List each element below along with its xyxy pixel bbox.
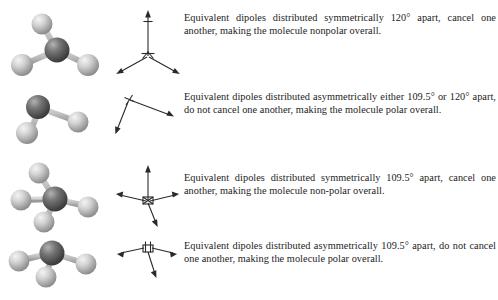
dipole-diagram-trigonal-symmetric (112, 6, 184, 78)
arrowhead (172, 192, 179, 198)
central-atom (43, 187, 68, 212)
dipole-arrow (120, 57, 147, 72)
dipole-vectors-tetrahedral-symmetric (112, 162, 184, 234)
bent-molecule (0, 88, 112, 152)
dipole-diagram-bent-asymmetric (112, 88, 184, 150)
dipole-cross-tail (143, 245, 153, 252)
description-cell: Equivalent dipoles distributed symmetric… (184, 162, 498, 198)
description-text: Equivalent dipoles distributed asymmetri… (184, 91, 496, 117)
trigonal-planar-molecule (0, 6, 112, 82)
central-atom (26, 95, 50, 119)
terminal-atom (11, 54, 33, 76)
dipole-arrow (121, 248, 144, 253)
trigonal-pyramidal-molecule (0, 236, 112, 296)
dipole-vectors-bent-asymmetric (112, 88, 184, 152)
molecule-model-trigonal-pyramidal (0, 236, 112, 296)
terminal-atom (77, 54, 99, 76)
description-text: Equivalent dipoles distributed symmetric… (184, 12, 496, 38)
molecule-model-tetrahedral (0, 162, 112, 232)
description-cell: Equivalent dipoles distributed asymmetri… (184, 88, 498, 117)
dipole-arrow (152, 248, 173, 253)
arrowhead (151, 270, 157, 278)
dipole-arrow (117, 102, 128, 130)
terminal-atom (68, 112, 89, 133)
dipole-arrow (130, 100, 170, 115)
arrowhead (115, 126, 121, 134)
central-atom (45, 38, 70, 63)
dipole-diagram-pyramidal-asymmetric (112, 236, 184, 296)
terminal-atom (32, 14, 53, 35)
dipole-arrow (120, 195, 146, 201)
dipole-arrow (150, 195, 175, 201)
figure-row: Equivalent dipoles distributed symmetric… (0, 6, 498, 86)
arrowhead (116, 68, 124, 74)
dipole-vectors-pyramidal-asymmetric (112, 236, 184, 296)
dipole-diagram-tetrahedral-symmetric (112, 162, 184, 232)
figure-row: Equivalent dipoles distributed asymmetri… (0, 88, 498, 158)
tetrahedral-molecule (0, 162, 112, 234)
terminal-atom (16, 122, 38, 144)
dipole-arrow (148, 252, 155, 274)
molecule-model-bent (0, 88, 112, 150)
arrowhead (117, 252, 124, 258)
figure-row: Equivalent dipoles distributed asymmetri… (0, 236, 498, 300)
description-text: Equivalent dipoles distributed asymmetri… (184, 240, 496, 266)
arrowhead (116, 192, 123, 198)
description-cell: Equivalent dipoles distributed symmetric… (184, 6, 498, 38)
dipole-arrow (149, 57, 176, 72)
arrowhead (170, 252, 177, 258)
figure-row: Equivalent dipoles distributed symmetric… (0, 162, 498, 238)
dipole-arrow (148, 203, 156, 223)
arrowhead (152, 219, 158, 227)
terminal-atom (34, 212, 55, 233)
arrowhead (166, 111, 174, 117)
description-cell: Equivalent dipoles distributed asymmetri… (184, 236, 498, 266)
arrowhead (145, 165, 151, 172)
terminal-atom (9, 251, 30, 272)
central-atom (40, 241, 65, 266)
terminal-atom (76, 254, 97, 275)
description-text: Equivalent dipoles distributed symmetric… (184, 172, 496, 198)
molecule-model-trigonal-planar (0, 6, 112, 78)
arrowhead (145, 10, 151, 17)
terminal-atom (78, 197, 99, 218)
terminal-atom (29, 163, 50, 184)
arrowhead (172, 68, 180, 74)
dipole-vectors-trigonal-symmetric (112, 6, 184, 82)
terminal-atom (36, 267, 57, 288)
terminal-atom (11, 190, 32, 211)
polarity-figure: Equivalent dipoles distributed symmetric… (0, 0, 498, 300)
